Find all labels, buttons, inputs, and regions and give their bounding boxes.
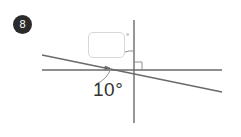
problem-number-label: 8 <box>19 19 25 30</box>
answer-input-box[interactable] <box>88 32 125 58</box>
right-angle-marker <box>134 62 142 70</box>
transversal-line <box>42 55 222 92</box>
angle-measure-label: 10° <box>93 80 123 99</box>
degree-symbol-marker: ° <box>126 33 129 41</box>
geometry-figure <box>0 0 241 137</box>
figure-canvas: 8 ° 10° <box>0 0 241 137</box>
problem-number-badge: 8 <box>13 15 32 34</box>
